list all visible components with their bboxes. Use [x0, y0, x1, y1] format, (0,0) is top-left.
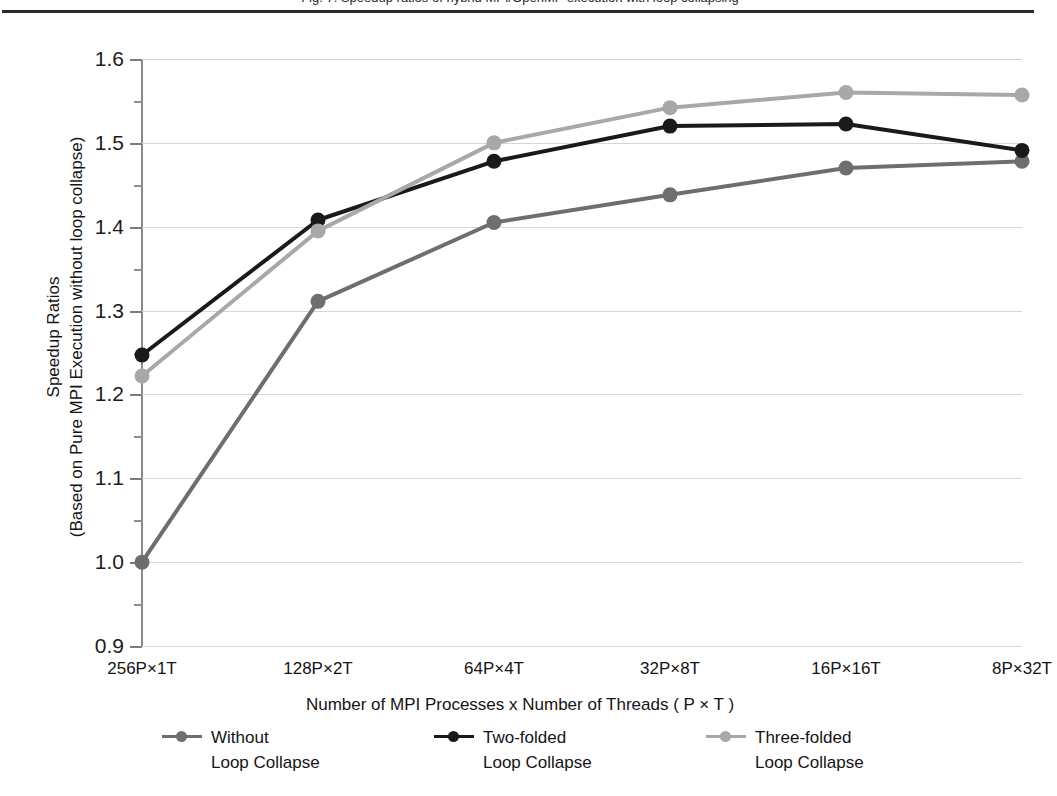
horizontal-rule — [2, 10, 1034, 13]
legend-item[interactable]: WithoutLoop Collapse — [162, 726, 320, 775]
data-point — [839, 85, 854, 100]
x-axis-tick-label: 16P×16T — [761, 659, 931, 679]
y-axis-tick-label: 1.6 — [72, 48, 124, 69]
y-axis-tick-minor — [134, 269, 142, 271]
legend-label: WithoutLoop Collapse — [211, 726, 320, 775]
legend-label: Two-foldedLoop Collapse — [483, 726, 592, 775]
y-axis-tick-major — [130, 311, 142, 313]
y-axis-tick-minor — [134, 604, 142, 606]
figure-caption-clipped: Fig. 7. Speedup ratios of hybrid MPI/Ope… — [0, 0, 1040, 7]
x-axis-tick-label: 256P×1T — [57, 659, 227, 679]
data-point — [311, 294, 326, 309]
data-point — [1015, 143, 1030, 158]
data-point — [135, 368, 150, 383]
data-point — [663, 187, 678, 202]
legend-item[interactable]: Two-foldedLoop Collapse — [434, 726, 592, 775]
series-line — [142, 93, 1022, 376]
data-point — [487, 215, 502, 230]
y-axis-tick-minor — [134, 436, 142, 438]
y-axis-tick-label: 1.2 — [72, 383, 124, 404]
data-point — [135, 348, 150, 363]
y-axis-tick-label: 1.3 — [72, 300, 124, 321]
x-axis-tick-label: 64P×4T — [409, 659, 579, 679]
y-axis-tick-labels: 0.91.01.11.21.31.41.51.6 — [58, 14, 124, 714]
x-axis-title: Number of MPI Processes x Number of Thre… — [0, 695, 1040, 715]
y-axis-tick-label: 1.4 — [72, 216, 124, 237]
legend-marker-icon — [434, 727, 474, 745]
legend-marker-icon — [162, 727, 202, 745]
series-2 — [135, 116, 1030, 362]
y-axis-tick-label: 0.9 — [72, 635, 124, 656]
y-axis-tick-label: 1.5 — [72, 132, 124, 153]
y-axis-tick-minor — [134, 101, 142, 103]
legend-label: Three-foldedLoop Collapse — [755, 726, 864, 775]
y-axis-tick-major — [130, 478, 142, 480]
y-axis-tick-major — [130, 646, 142, 648]
data-point — [487, 154, 502, 169]
data-point — [663, 100, 678, 115]
data-point — [135, 555, 150, 570]
y-axis-tick-major — [130, 394, 142, 396]
data-point — [311, 223, 326, 238]
series-line — [142, 161, 1022, 562]
x-axis-tick-labels: 256P×1T128P×2T64P×4T32P×8T16P×16T8P×32T — [142, 659, 1022, 685]
y-axis-tick-label: 1.0 — [72, 551, 124, 572]
y-axis-tick-major — [130, 143, 142, 145]
chart-figure: Speedup Ratios (Based on Pure MPI Execut… — [0, 14, 1040, 796]
y-axis-tick-minor — [134, 520, 142, 522]
gridline — [142, 646, 1022, 647]
y-axis-tick-minor — [134, 185, 142, 187]
data-point — [1015, 88, 1030, 103]
series-layer — [142, 59, 1022, 646]
data-point — [663, 119, 678, 134]
y-axis-tick-major — [130, 59, 142, 61]
x-axis-tick-label: 8P×32T — [937, 659, 1057, 679]
data-point — [839, 161, 854, 176]
y-axis-tick-label: 1.1 — [72, 467, 124, 488]
plot-area — [142, 59, 1022, 646]
figure-caption-text: Fig. 7. Speedup ratios of hybrid MPI/Ope… — [0, 0, 1040, 5]
legend-item[interactable]: Three-foldedLoop Collapse — [706, 726, 864, 775]
chart-legend: WithoutLoop CollapseTwo-foldedLoop Colla… — [142, 726, 1022, 786]
data-point — [487, 135, 502, 150]
data-point — [839, 116, 854, 131]
x-axis-tick-label: 32P×8T — [585, 659, 755, 679]
y-axis-tick-major — [130, 227, 142, 229]
series-line — [142, 124, 1022, 355]
series-1 — [135, 154, 1030, 570]
legend-marker-icon — [706, 727, 746, 745]
x-axis-tick-label: 128P×2T — [233, 659, 403, 679]
